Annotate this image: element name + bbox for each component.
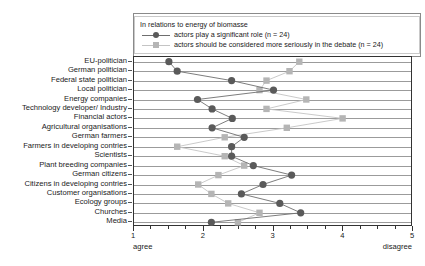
x-tick-label: 5 <box>410 231 414 240</box>
data-point-marker <box>339 115 345 121</box>
category-label: Financial actors <box>74 112 127 121</box>
data-point-marker <box>241 162 247 168</box>
category-tick <box>128 99 132 100</box>
category-label: Farmers in developing contries <box>23 141 127 150</box>
x-tick-label: 4 <box>340 231 344 240</box>
category-label: Ecology groups <box>75 197 127 206</box>
data-point-marker <box>194 96 201 103</box>
x-tick-label: 2 <box>201 231 205 240</box>
data-point-marker <box>208 219 215 226</box>
data-point-marker <box>238 190 245 197</box>
category-tick <box>128 70 132 71</box>
category-tick <box>128 165 132 166</box>
category-tick <box>128 184 132 185</box>
legend-label-considered-seriously: actors should be considered more serious… <box>174 40 383 50</box>
category-tick <box>128 127 132 128</box>
category-label: Media <box>106 216 127 225</box>
series-layer <box>134 57 413 227</box>
data-point-marker <box>297 209 304 216</box>
category-label: Local politician <box>77 84 127 93</box>
legend-title: In relations to energy of biomasse <box>140 20 415 29</box>
data-point-marker <box>259 181 266 188</box>
category-label: German politician <box>68 65 127 74</box>
category-label: Customer organisations <box>47 188 127 197</box>
category-tick <box>128 174 132 175</box>
data-point-marker <box>195 181 201 187</box>
data-point-marker <box>229 115 236 122</box>
legend-key-square <box>140 40 172 50</box>
category-tick <box>128 80 132 81</box>
data-point-marker <box>174 68 181 75</box>
category-label: Plant breeding companies <box>39 160 127 169</box>
chart-figure: In relations to energy of biomasse actor… <box>0 0 425 266</box>
category-label: Energy companies <box>64 94 127 103</box>
x-axis-label-agree: agree <box>133 242 152 251</box>
data-point-marker <box>222 134 228 140</box>
data-point-marker <box>209 124 216 131</box>
category-tick <box>128 61 132 62</box>
data-point-marker <box>286 68 292 74</box>
data-point-marker <box>270 87 277 94</box>
data-point-marker <box>228 143 235 150</box>
category-label: Agricultural organisations <box>42 122 127 131</box>
category-tick <box>128 212 132 213</box>
legend-entry-significant-role: actors play a significant role (n = 24) <box>140 30 415 40</box>
category-tick <box>128 108 132 109</box>
category-tick <box>128 193 132 194</box>
data-point-marker <box>276 200 283 207</box>
data-point-marker <box>288 172 295 179</box>
x-minor-tick <box>255 226 256 229</box>
x-tick-label: 3 <box>270 231 274 240</box>
category-label: Technology developer/ Industry <box>22 103 127 112</box>
legend-label-significant-role: actors play a significant role (n = 24) <box>174 30 290 40</box>
category-label: Scientists <box>95 150 128 159</box>
data-point-marker <box>256 210 262 216</box>
data-point-marker <box>165 58 172 65</box>
data-point-marker <box>208 191 214 197</box>
category-tick <box>128 136 132 137</box>
category-tick <box>128 89 132 90</box>
category-tick <box>128 146 132 147</box>
plot-area <box>133 56 412 226</box>
data-point-marker <box>228 153 235 160</box>
data-point-marker <box>222 153 228 159</box>
x-minor-tick <box>220 226 221 229</box>
x-minor-tick <box>150 226 151 229</box>
category-tick <box>128 155 132 156</box>
value-axis: 12345agreedisagree <box>133 226 412 266</box>
category-tick <box>128 202 132 203</box>
data-point-marker <box>250 162 257 169</box>
x-minor-tick <box>290 226 291 229</box>
category-label: EU-politician <box>84 56 127 65</box>
category-tick <box>128 221 132 222</box>
data-point-marker <box>228 77 235 84</box>
x-minor-tick <box>238 226 239 229</box>
category-tick <box>128 117 132 118</box>
chart-legend: In relations to energy of biomasse actor… <box>133 13 421 57</box>
x-minor-tick <box>307 226 308 229</box>
legend-key-circle <box>140 30 172 40</box>
x-minor-tick <box>168 226 169 229</box>
data-point-marker <box>215 172 221 178</box>
legend-entry-considered-seriously: actors should be considered more serious… <box>140 40 415 50</box>
data-point-marker <box>263 77 269 83</box>
category-label: German farmers <box>72 131 127 140</box>
data-point-marker <box>263 106 269 112</box>
data-point-marker <box>209 105 216 112</box>
category-label: Churches <box>95 207 128 216</box>
data-point-marker <box>296 59 302 65</box>
x-minor-tick <box>377 226 378 229</box>
x-minor-tick <box>395 226 396 229</box>
data-point-marker <box>241 134 248 141</box>
data-point-marker <box>174 144 180 150</box>
category-label: German citizens <box>72 169 127 178</box>
data-point-marker <box>225 200 231 206</box>
x-axis-label-disagree: disagree <box>383 242 412 251</box>
x-minor-tick <box>185 226 186 229</box>
x-minor-tick <box>325 226 326 229</box>
category-axis-labels: EU-politicianGerman politicianFederal st… <box>0 56 130 226</box>
series-line <box>169 62 301 223</box>
data-point-marker <box>303 96 309 102</box>
category-label: Federal state politician <box>51 75 127 84</box>
data-point-marker <box>284 125 290 131</box>
